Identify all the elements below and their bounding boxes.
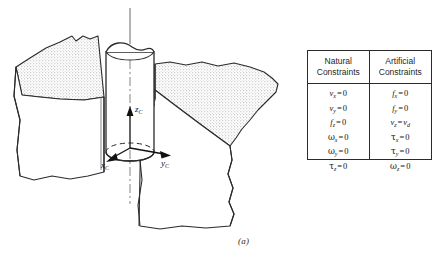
y-axis-label: yC	[161, 158, 169, 169]
table-body: vx=0vy=0fz=0ωx=0ωy=0τz=0 fx=0fy=0vz=vdτx…	[308, 84, 431, 160]
z-axis-label: zC	[135, 104, 143, 115]
constraint-equation: vz=vd	[390, 117, 410, 132]
equation-lhs-symbol: ω	[328, 146, 335, 156]
natural-header-line1: Natural	[325, 56, 352, 67]
constraint-equation: τy=0	[391, 146, 409, 161]
equation-rhs-value: 0	[404, 103, 408, 113]
equation-rhs-value: 0	[343, 88, 347, 98]
constraint-equation: fx=0	[392, 88, 408, 103]
constraint-equation: τz=0	[329, 161, 347, 176]
constraint-equation: fy=0	[392, 103, 408, 118]
artificial-constraints-header: Artificial Constraints	[370, 51, 432, 83]
equation-rhs-value: 0	[343, 161, 347, 171]
artificial-header-line1: Artificial	[385, 56, 415, 67]
artificial-header-line2: Constraints	[379, 67, 422, 78]
equation-operator: =	[336, 103, 343, 113]
equation-rhs-value: 0	[343, 103, 347, 113]
natural-constraints-column: vx=0vy=0fz=0ωx=0ωy=0τz=0	[308, 84, 370, 160]
equation-rhs-value: 0	[405, 132, 409, 142]
equation-rhs-value: 0	[344, 132, 348, 142]
left-block-top-face	[16, 36, 104, 100]
constraint-equation: ωz=0	[390, 161, 410, 176]
figure-caption: (a)	[238, 236, 249, 246]
equation-rhs-value: 0	[342, 117, 346, 127]
equation-operator: =	[336, 88, 343, 98]
constraint-equation: ωy=0	[328, 146, 349, 161]
constraint-equation: vx=0	[330, 88, 348, 103]
figure-page: zC xC yC (a) Natural Constraints Artific…	[0, 0, 442, 262]
equation-operator: =	[335, 117, 342, 127]
equation-rhs-subscript: d	[407, 122, 410, 128]
equation-rhs-value: 0	[406, 161, 410, 171]
artificial-constraints-column: fx=0fy=0vz=vdτx=0τy=0ωz=0	[370, 84, 432, 160]
peg-torn-top-edge	[106, 43, 154, 52]
equation-lhs-symbol: ω	[328, 132, 335, 142]
peg-in-hole-diagram: zC xC yC	[0, 0, 290, 262]
natural-header-line2: Constraints	[317, 67, 360, 78]
equation-rhs-value: 0	[344, 146, 348, 156]
equation-rhs-value: 0	[405, 146, 409, 156]
constraint-equation: vy=0	[330, 103, 348, 118]
equation-rhs-value: 0	[404, 88, 408, 98]
table-header-row: Natural Constraints Artificial Constrain…	[308, 51, 431, 84]
constraint-equation: ωx=0	[328, 132, 349, 147]
constraint-equation: τx=0	[391, 132, 409, 147]
x-axis-label: xC	[101, 160, 109, 171]
natural-constraints-header: Natural Constraints	[308, 51, 370, 83]
constraint-equation: fz=0	[330, 117, 346, 132]
equation-lhs-symbol: ω	[390, 161, 397, 171]
constraints-table: Natural Constraints Artificial Constrain…	[307, 50, 432, 160]
